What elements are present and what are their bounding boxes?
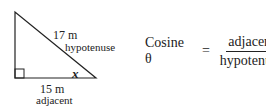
equals-sign: = <box>202 43 210 59</box>
hypotenuse-label: hypotenuse <box>65 41 115 53</box>
fraction: adjacent hypotenuse <box>220 34 266 69</box>
formula-lhs: Cosine θ <box>145 35 184 67</box>
angle-x-label: x <box>72 66 79 82</box>
cosine-formula: Cosine θ = adjacent hypotenuse <box>145 36 266 66</box>
right-angle-marker <box>15 69 24 78</box>
fraction-denominator: hypotenuse <box>220 52 266 69</box>
fraction-numerator: adjacent <box>226 34 266 52</box>
adjacent-label: adjacent <box>36 94 73 106</box>
